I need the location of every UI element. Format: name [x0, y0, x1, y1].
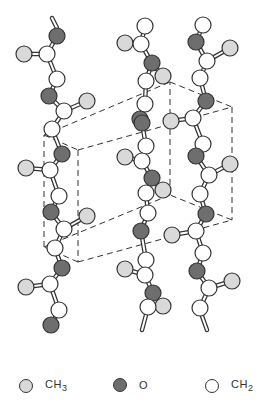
methylene-atom-icon — [44, 121, 60, 137]
legend-label-ch2: CH2 — [231, 378, 253, 393]
ch2-swatch-icon — [205, 379, 219, 393]
methyl-atom-icon — [79, 208, 95, 224]
methyl-atom-icon — [117, 149, 133, 165]
methylene-atom-icon — [138, 185, 154, 201]
oxygen-atom-icon — [198, 93, 214, 109]
methylene-atom-icon — [47, 240, 63, 256]
methylene-atom-icon — [201, 280, 217, 296]
methylene-atom-icon — [134, 153, 150, 169]
methylene-atom-icon — [140, 299, 156, 315]
legend-item-o: O — [113, 378, 148, 392]
methylene-atom-icon — [188, 223, 204, 239]
methylene-atom-icon — [56, 221, 72, 237]
methylene-atom-icon — [137, 96, 153, 112]
methyl-atom-icon — [155, 298, 171, 314]
oxygen-atom-icon — [41, 88, 57, 104]
methylene-atom-icon — [49, 71, 65, 87]
methyl-atom-icon — [117, 261, 133, 277]
methyl-atom-icon — [222, 156, 238, 172]
methylene-atom-icon — [56, 103, 72, 119]
methylene-atom-icon — [195, 245, 211, 261]
methyl-atom-icon — [18, 279, 34, 295]
oxygen-atom-icon — [134, 115, 150, 131]
oxygen-atom-icon — [54, 260, 70, 276]
oxygen-atom-icon — [43, 317, 59, 333]
methylene-atom-icon — [51, 188, 67, 204]
legend: CH3 O CH2 — [0, 378, 263, 404]
legend-item-ch2: CH2 — [205, 378, 253, 393]
methyl-atom-icon — [16, 46, 32, 62]
methylene-atom-icon — [199, 53, 215, 69]
methylene-atom-icon — [138, 252, 154, 268]
legend-item-ch3: CH3 — [19, 378, 67, 393]
methylene-atom-icon — [201, 167, 217, 183]
methyl-atom-icon — [18, 160, 34, 176]
methyl-atom-icon — [79, 93, 95, 109]
oxygen-atom-icon — [144, 55, 160, 71]
methylene-atom-icon — [137, 267, 153, 283]
methylene-atom-icon — [39, 46, 55, 62]
methylene-atom-icon — [185, 110, 201, 126]
oxygen-swatch-icon — [113, 378, 127, 392]
methylene-atom-icon — [138, 138, 154, 154]
methylene-atom-icon — [192, 186, 208, 202]
methyl-atom-icon — [155, 68, 171, 84]
methyl-atom-icon — [117, 35, 133, 51]
methyl-atom-icon — [224, 273, 240, 289]
methylene-atom-icon — [192, 70, 208, 86]
methyl-atom-icon — [163, 113, 179, 129]
methylene-atom-icon — [138, 73, 154, 89]
methylene-atom-icon — [195, 17, 211, 33]
methylene-atom-icon — [42, 276, 58, 292]
molecular-packing-diagram — [0, 0, 263, 370]
oxygen-atom-icon — [133, 223, 149, 239]
methylene-atom-icon — [42, 162, 58, 178]
oxygen-atom-icon — [43, 204, 59, 220]
methylene-atom-icon — [51, 302, 67, 318]
oxygen-atom-icon — [198, 206, 214, 222]
methyl-atom-icon — [155, 182, 171, 198]
methylene-atom-icon — [192, 300, 208, 316]
oxygen-atom-icon — [189, 263, 205, 279]
ch3-swatch-icon — [19, 379, 33, 393]
methylene-atom-icon — [133, 36, 149, 52]
methyl-atom-icon — [164, 227, 180, 243]
oxygen-atom-icon — [188, 34, 204, 50]
legend-label-o: O — [139, 379, 148, 391]
oxygen-atom-icon — [49, 28, 65, 44]
oxygen-atom-icon — [188, 148, 204, 164]
legend-label-ch3: CH3 — [45, 378, 67, 393]
methylene-atom-icon — [140, 205, 156, 221]
oxygen-atom-icon — [54, 146, 70, 162]
methylene-atom-icon — [137, 18, 153, 34]
methyl-atom-icon — [222, 40, 238, 56]
